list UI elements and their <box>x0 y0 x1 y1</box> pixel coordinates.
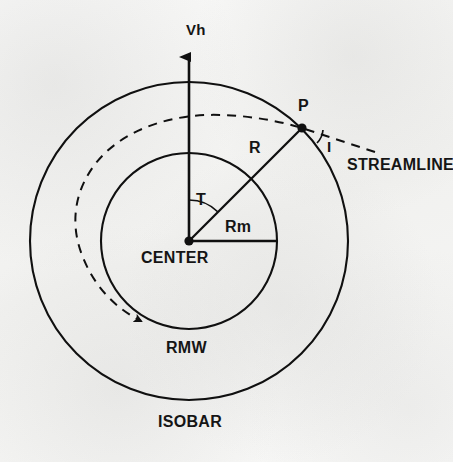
label-center: CENTER <box>141 250 209 266</box>
label-vh: Vh <box>186 22 206 37</box>
label-azimuth-angle: T <box>196 192 206 208</box>
label-p: P <box>298 98 309 114</box>
label-rmw: RMW <box>166 340 207 356</box>
center-point-marker <box>184 236 193 245</box>
label-isobar: ISOBAR <box>158 414 222 430</box>
label-rm: Rm <box>225 219 251 235</box>
p-point-marker <box>297 123 306 132</box>
label-streamline: STREAMLINE <box>347 157 453 173</box>
label-radius: R <box>249 140 261 156</box>
i-angle-arc <box>317 130 323 143</box>
label-inflow-angle: I <box>327 139 331 154</box>
diagram-figure: Vh P I STREAMLINE R T Rm CENTER RMW ISOB… <box>0 0 453 462</box>
